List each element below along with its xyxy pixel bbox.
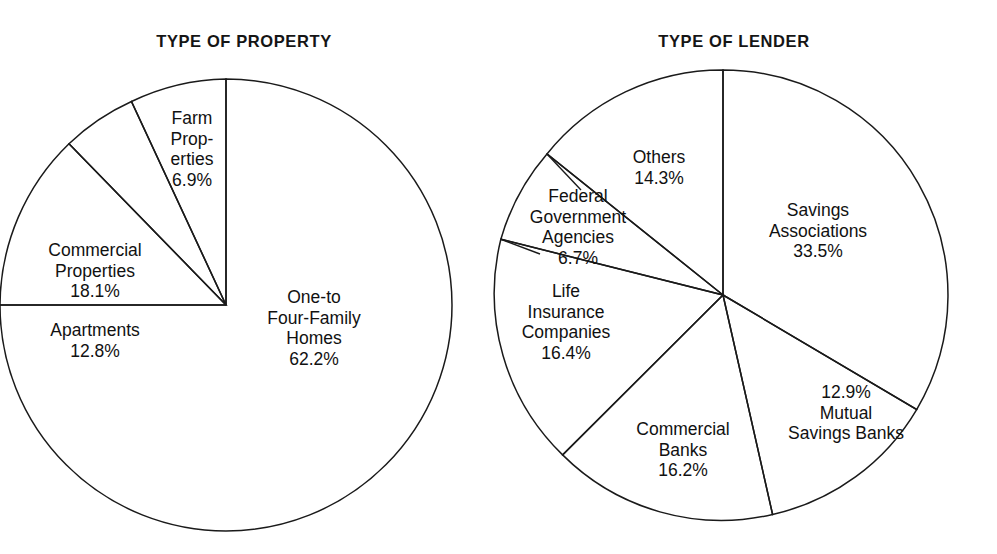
pie-charts-svg bbox=[0, 0, 997, 554]
pie-chart-figure: TYPE OF PROPERTY TYPE OF LENDER bbox=[0, 0, 997, 554]
label-savings-associations: Savings Associations 33.5% bbox=[769, 200, 867, 262]
pie-type-of-property bbox=[0, 79, 452, 531]
label-others: Others 14.3% bbox=[633, 147, 686, 188]
chart-title-type-of-property: TYPE OF PROPERTY bbox=[156, 32, 332, 51]
label-one-to-four-family-homes: One-to Four-Family Homes 62.2% bbox=[267, 287, 360, 369]
label-life-insurance-companies: Life Insurance Companies 16.4% bbox=[522, 281, 611, 363]
label-apartments: Apartments 12.8% bbox=[50, 320, 139, 361]
label-farm-properties: Farm Prop- erties 6.9% bbox=[171, 108, 214, 190]
label-federal-government-agencies: Federal Government Agencies 6.7% bbox=[530, 186, 626, 268]
label-mutual-savings-banks: 12.9% Mutual Savings Banks bbox=[788, 382, 904, 444]
chart-title-type-of-lender: TYPE OF LENDER bbox=[658, 32, 809, 51]
label-commercial-banks: Commercial Banks 16.2% bbox=[636, 419, 729, 481]
leader-line-federal-upper bbox=[547, 154, 581, 190]
label-commercial-properties: Commercial Properties 18.1% bbox=[48, 240, 141, 302]
